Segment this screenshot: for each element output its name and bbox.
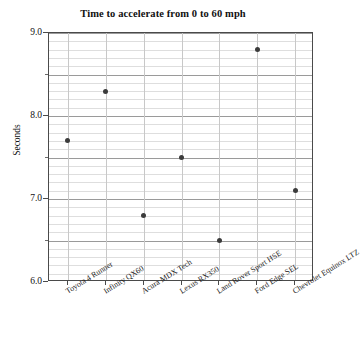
gridline-horizontal: [49, 249, 312, 250]
gridline-horizontal: [49, 141, 312, 142]
gridline-horizontal: [49, 191, 312, 192]
gridline-horizontal: [49, 182, 312, 183]
gridline-horizontal: [49, 116, 312, 117]
gridline-horizontal: [49, 133, 312, 134]
y-axis-tick: [43, 115, 48, 116]
gridline-horizontal: [49, 199, 312, 200]
gridline-horizontal: [49, 149, 312, 150]
gridline-horizontal: [49, 224, 312, 225]
gridline-horizontal: [49, 124, 312, 125]
gridline-horizontal: [49, 207, 312, 208]
y-axis-tick: [43, 198, 48, 199]
gridline-horizontal: [49, 66, 312, 67]
gridline-vertical: [106, 33, 107, 280]
data-point: [293, 188, 298, 193]
gridline-horizontal: [49, 241, 312, 242]
data-point: [179, 155, 184, 160]
y-axis-minor-tick: [45, 157, 48, 158]
y-axis-tick-label: 8.0: [2, 110, 42, 120]
gridline-vertical: [257, 33, 258, 280]
gridline-horizontal: [49, 75, 312, 76]
gridline-horizontal: [49, 41, 312, 42]
chart-title: Time to accelerate from 0 to 60 mph: [0, 8, 326, 19]
gridline-horizontal: [49, 91, 312, 92]
data-point: [103, 89, 108, 94]
gridline-horizontal: [49, 50, 312, 51]
gridline-horizontal: [49, 83, 312, 84]
data-point: [65, 138, 70, 143]
y-axis-tick: [43, 281, 48, 282]
y-axis-tick-label: 9.0: [2, 27, 42, 37]
gridline-horizontal: [49, 174, 312, 175]
gridline-vertical: [144, 33, 145, 280]
y-axis-minor-tick: [45, 74, 48, 75]
gridline-horizontal: [49, 33, 312, 34]
y-axis-tick-label: 7.0: [2, 193, 42, 203]
plot-area: [48, 32, 313, 281]
gridline-horizontal: [49, 99, 312, 100]
data-point: [141, 213, 146, 218]
data-point: [255, 47, 260, 52]
y-axis-tick-label: 6.0: [2, 276, 42, 286]
gridline-horizontal: [49, 166, 312, 167]
gridline-vertical: [68, 33, 69, 280]
data-point: [217, 238, 222, 243]
gridline-horizontal: [49, 108, 312, 109]
gridline-vertical: [295, 33, 296, 280]
y-axis-tick: [43, 32, 48, 33]
gridline-horizontal: [49, 58, 312, 59]
y-axis-minor-tick: [45, 240, 48, 241]
gridline-horizontal: [49, 216, 312, 217]
gridline-horizontal: [49, 232, 312, 233]
